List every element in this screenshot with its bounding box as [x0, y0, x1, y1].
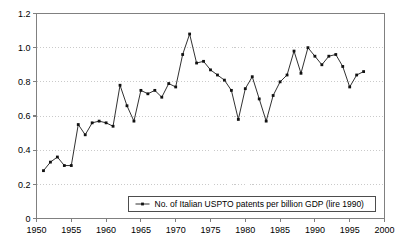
data-series [42, 33, 365, 172]
chart-container: 00.20.40.60.81.01.2 19501955196019651970… [0, 0, 405, 250]
series-marker [362, 70, 365, 73]
x-tick-label: 1970 [166, 225, 186, 235]
tick-marks [33, 14, 385, 223]
series-marker [112, 125, 115, 128]
series-marker [251, 75, 254, 78]
series-marker [209, 68, 212, 71]
chart-legend: No. of Italian USPTO patents per billion… [129, 197, 376, 212]
x-tick-label: 1990 [305, 225, 325, 235]
x-tick-label: 1975 [200, 225, 220, 235]
series-marker [279, 80, 282, 83]
y-axis-tick-labels: 00.20.40.60.81.01.2 [18, 9, 31, 224]
series-marker [237, 118, 240, 121]
series-marker [195, 62, 198, 65]
series-marker [63, 164, 66, 167]
series-marker [140, 89, 143, 92]
legend-label: No. of Italian USPTO patents per billion… [155, 199, 365, 209]
series-marker [223, 79, 226, 82]
series-marker [153, 89, 156, 92]
series-marker [133, 120, 136, 123]
series-marker [320, 63, 323, 66]
series-marker [216, 74, 219, 77]
series-marker [188, 33, 191, 36]
series-marker [91, 121, 94, 124]
series-marker [42, 169, 45, 172]
series-marker [126, 104, 129, 107]
x-tick-label: 1995 [340, 225, 360, 235]
line-chart: 00.20.40.60.81.01.2 19501955196019651970… [0, 0, 405, 250]
legend-sample-marker [141, 203, 144, 206]
y-tick-label: 0.4 [18, 145, 31, 155]
series-marker [314, 55, 317, 58]
series-marker [105, 121, 108, 124]
series-marker [56, 156, 59, 159]
x-tick-label: 1950 [26, 225, 46, 235]
series-marker [272, 94, 275, 97]
series-marker [265, 120, 268, 123]
series-marker [244, 87, 247, 90]
x-tick-label: 2000 [374, 225, 394, 235]
series-marker [202, 60, 205, 63]
series-marker [70, 164, 73, 167]
series-marker [77, 123, 80, 126]
series-marker [348, 86, 351, 89]
series-marker [230, 89, 233, 92]
series-marker [119, 84, 122, 87]
series-marker [49, 161, 52, 164]
series-marker [160, 96, 163, 99]
series-marker [327, 55, 330, 58]
y-tick-label: 0.8 [18, 77, 31, 87]
series-marker [174, 86, 177, 89]
y-tick-label: 0.2 [18, 180, 31, 190]
series-marker [341, 65, 344, 68]
y-tick-label: 1.0 [18, 43, 31, 53]
y-tick-label: 0.6 [18, 111, 31, 121]
series-marker [307, 46, 310, 49]
y-tick-label: 1.2 [18, 9, 31, 19]
gridlines [37, 14, 385, 185]
x-tick-label: 1985 [270, 225, 290, 235]
series-marker [300, 72, 303, 75]
x-tick-label: 1955 [61, 225, 81, 235]
x-tick-label: 1980 [235, 225, 255, 235]
series-marker [355, 74, 358, 77]
x-tick-label: 1960 [96, 225, 116, 235]
series-marker [334, 53, 337, 56]
series-marker [258, 98, 261, 101]
x-tick-label: 1965 [131, 225, 151, 235]
series-marker [293, 50, 296, 53]
series-marker [181, 53, 184, 56]
series-marker [98, 120, 101, 123]
x-axis-tick-labels: 1950195519601965197019751980198519901995… [26, 225, 394, 235]
series-marker [146, 92, 149, 95]
series-marker [167, 82, 170, 85]
series-marker [286, 74, 289, 77]
y-tick-label: 0 [25, 214, 30, 224]
series-marker [84, 133, 87, 136]
